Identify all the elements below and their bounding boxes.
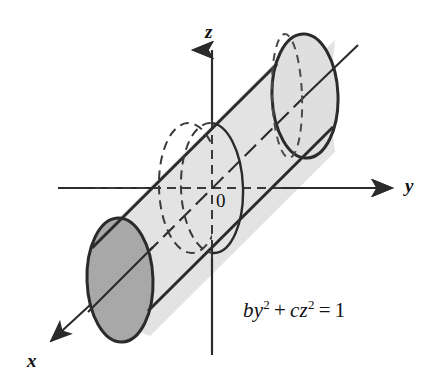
figure-canvas: z y x 0 by2+cz2=1 (0, 0, 434, 387)
equation-plus-operator: + (270, 298, 290, 322)
equation-equals-operator: = (315, 298, 335, 322)
x-axis-label: x (27, 351, 37, 370)
equation-label: by2+cz2=1 (243, 300, 345, 321)
z-axis-label: z (205, 22, 212, 41)
equation-term2: cz (290, 298, 308, 322)
equation-term1: by (243, 298, 263, 322)
equation-right-side: 1 (335, 298, 346, 322)
equation-term2-exponent: 2 (308, 297, 315, 312)
y-axis-label: y (405, 176, 413, 195)
origin-label: 0 (216, 191, 226, 210)
equation-term1-exponent: 2 (263, 297, 270, 312)
